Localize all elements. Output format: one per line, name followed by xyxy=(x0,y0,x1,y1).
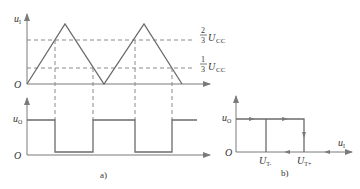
diagram-canvas: uI O 2 3 U CC 1 3 U CC uO O a) uO O uI U… xyxy=(0,0,360,189)
label-ut-plus: UT+ xyxy=(297,155,312,167)
svg-text:1: 1 xyxy=(201,55,205,64)
threshold-label-lower: 1 3 U CC xyxy=(200,55,226,74)
svg-text:U: U xyxy=(208,32,216,43)
label-ui-b: uI xyxy=(338,137,345,149)
origin-label-bottom: O xyxy=(14,150,21,161)
label-ui-top: uI xyxy=(14,13,21,25)
svg-text:CC: CC xyxy=(216,66,226,74)
arrow-left-1 xyxy=(284,150,290,154)
svg-text:3: 3 xyxy=(201,65,205,74)
label-uo-b: uO xyxy=(222,112,232,124)
origin-label-top: O xyxy=(14,79,21,90)
svg-text:3: 3 xyxy=(201,36,205,45)
origin-label-b: O xyxy=(225,147,232,158)
arrow-right-1 xyxy=(249,117,255,121)
caption-b: b) xyxy=(281,168,289,178)
arrow-right-2 xyxy=(282,117,288,121)
arrow-left-2 xyxy=(324,150,330,154)
svg-text:CC: CC xyxy=(216,37,226,45)
svg-text:U: U xyxy=(208,61,216,72)
triangle-wave-plot xyxy=(27,14,210,84)
square-wave xyxy=(27,120,197,152)
hysteresis-plot xyxy=(236,96,352,154)
triangle-wave xyxy=(27,24,182,84)
arrow-down xyxy=(302,132,306,138)
square-wave-plot xyxy=(27,98,210,155)
svg-text:2: 2 xyxy=(201,26,205,35)
threshold-label-upper: 2 3 U CC xyxy=(200,26,226,45)
label-uo-bottom: uO xyxy=(13,113,23,125)
label-ut-minus: UT- xyxy=(259,155,271,167)
caption-a: a) xyxy=(100,170,107,180)
hysteresis-upper-path xyxy=(236,119,304,152)
switching-guides xyxy=(55,40,172,120)
